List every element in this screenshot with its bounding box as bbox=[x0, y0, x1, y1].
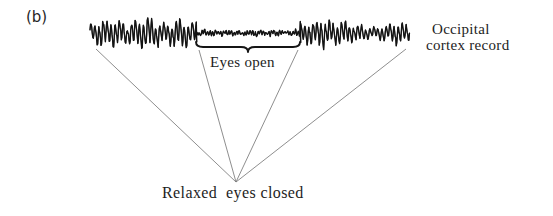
occipital-cortex-record-label: Occipitalcortex record bbox=[432, 21, 509, 53]
panel-label: (b) bbox=[26, 9, 47, 25]
eeg-figure: (b) Eyes open Relaxed eyes closed Occipi… bbox=[0, 0, 553, 216]
relaxed-eyes-closed-label: Relaxed eyes closed bbox=[162, 184, 304, 201]
record-label-line-1: Occipital bbox=[432, 21, 490, 37]
record-label-line-2: cortex record bbox=[426, 37, 509, 53]
eyes-open-label: Eyes open bbox=[210, 54, 275, 70]
